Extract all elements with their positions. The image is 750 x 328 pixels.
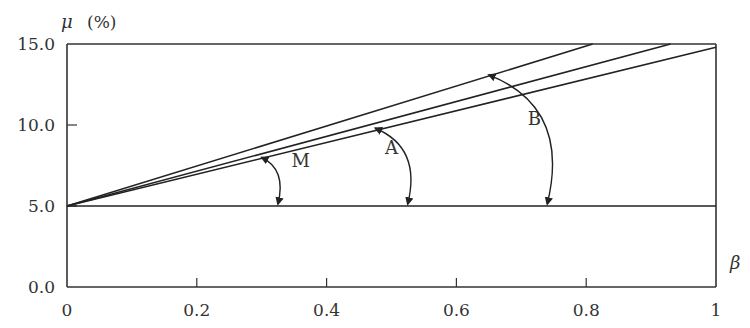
x-tick-label: 1	[711, 300, 722, 320]
y-axis-unit: (%)	[87, 12, 116, 32]
x-tick-label: 0.2	[183, 300, 210, 320]
y-tick-label: 5.0	[28, 196, 55, 216]
y-tick-label: 0.0	[28, 277, 55, 297]
y-tick-label: 10.0	[17, 115, 55, 135]
x-tick-label: 0.8	[573, 300, 600, 320]
angle-arc-m	[262, 157, 280, 204]
x-tick-label: 0	[62, 300, 73, 320]
chart: 00.20.40.60.810.05.010.015.0μ(%)β MAB	[0, 0, 750, 328]
x-tick-label: 0.6	[443, 300, 470, 320]
axes: 00.20.40.60.810.05.010.015.0μ(%)β	[17, 11, 740, 320]
annotation-label-m: M	[291, 150, 309, 171]
annotations: MAB	[262, 75, 553, 204]
y-axis-title: μ	[61, 11, 73, 32]
data-series	[67, 44, 716, 206]
y-tick-label: 15.0	[17, 34, 55, 54]
series-line-3	[67, 47, 716, 206]
series-line-1	[67, 44, 593, 206]
series-line-2	[67, 44, 671, 206]
angle-arc-b	[489, 75, 553, 204]
x-axis-title: β	[729, 252, 740, 273]
x-tick-label: 0.4	[313, 300, 340, 320]
annotation-label-a: A	[384, 137, 399, 158]
annotation-label-b: B	[528, 108, 541, 129]
